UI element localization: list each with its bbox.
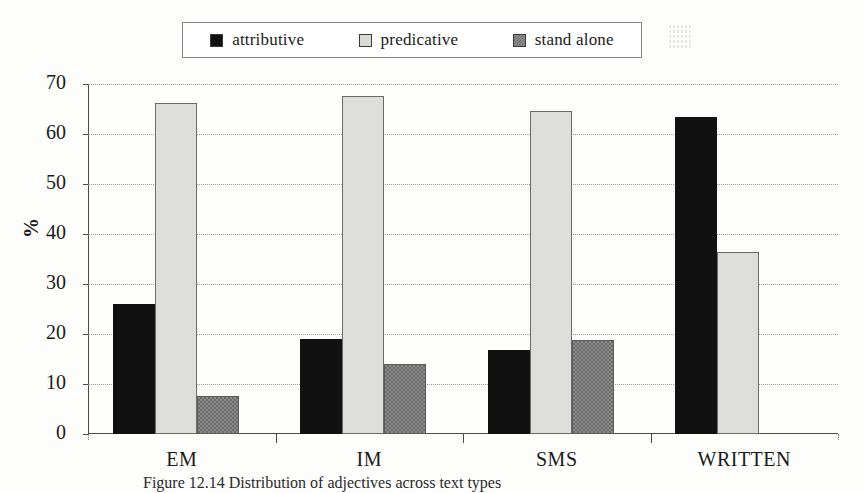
x-axis-label-written: WRITTEN <box>651 448 839 471</box>
bar-im-stand-alone <box>384 364 426 434</box>
bar-sms-predicative <box>530 111 572 434</box>
legend-label-predicative: predicative <box>381 30 459 50</box>
bar-sms-attributive <box>488 350 530 435</box>
x-axis-label-im: IM <box>276 448 464 471</box>
y-tick-label-20: 20 <box>0 321 66 344</box>
x-axis-end-tick-0 <box>88 434 89 440</box>
x-tick-divider-1 <box>276 434 277 443</box>
legend-swatch-attributive-icon <box>210 34 223 47</box>
y-tick-label-60: 60 <box>0 121 66 144</box>
bar-groups <box>88 84 838 434</box>
bar-sms-stand-alone <box>572 340 614 435</box>
x-tick-divider-2 <box>463 434 464 443</box>
legend-swatch-stand-alone-icon <box>513 34 526 47</box>
x-axis-end-tick-1 <box>838 434 839 440</box>
bar-written-attributive <box>675 117 717 435</box>
legend-label-stand-alone: stand alone <box>535 30 614 50</box>
bar-em-predicative <box>155 103 197 435</box>
chart-legend: attributive predicative stand alone <box>182 22 642 58</box>
y-tick-label-40: 40 <box>0 221 66 244</box>
legend-item-predicative: predicative <box>359 30 459 50</box>
legend-label-attributive: attributive <box>232 30 304 50</box>
legend-item-attributive: attributive <box>210 30 304 50</box>
y-tick-label-70: 70 <box>0 71 66 94</box>
x-axis: EMIMSMSWRITTEN <box>88 434 838 474</box>
plot-area <box>88 84 838 434</box>
bar-written-predicative <box>717 252 759 435</box>
bar-em-attributive <box>113 304 155 435</box>
bar-im-attributive <box>300 339 342 434</box>
legend-item-stand-alone: stand alone <box>513 30 614 50</box>
y-tick-label-50: 50 <box>0 171 66 194</box>
bar-im-predicative <box>342 96 384 434</box>
legend-swatch-predicative-icon <box>359 34 372 47</box>
y-tick-label-30: 30 <box>0 271 66 294</box>
x-tick-divider-3 <box>651 434 652 443</box>
figure-caption: Figure 12.14 Distribution of adjectives … <box>143 474 501 493</box>
x-axis-label-em: EM <box>88 448 276 471</box>
y-tick-label-10: 10 <box>0 371 66 394</box>
bar-em-stand-alone <box>197 396 239 435</box>
scan-artifact <box>668 24 692 50</box>
y-tick-label-0: 0 <box>0 421 66 444</box>
x-axis-label-sms: SMS <box>463 448 651 471</box>
figure-page: attributive predicative stand alone % 01… <box>0 0 863 493</box>
